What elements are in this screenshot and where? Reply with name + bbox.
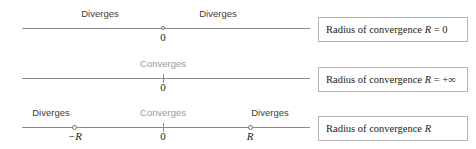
point-label-origin: 0 xyxy=(160,31,166,44)
region-label-converges-center: Converges xyxy=(140,58,186,69)
number-line-axis xyxy=(22,78,310,79)
region-label-diverges-left: Diverges xyxy=(32,107,70,118)
region-label-diverges-right: Diverges xyxy=(199,8,237,19)
caption-symbol-r: R xyxy=(425,123,431,134)
caption-prefix: Radius of convergence xyxy=(326,74,425,85)
point-label-pos-r: R xyxy=(247,130,254,143)
caption-suffix: = +∞ xyxy=(431,74,456,85)
point-label-origin: 0 xyxy=(160,81,166,94)
caption-prefix: Radius of convergence xyxy=(326,123,425,134)
pos-r-symbol: R xyxy=(247,130,254,142)
caption-text-r-infinite: Radius of convergence R = +∞ xyxy=(326,74,456,86)
point-label-origin: 0 xyxy=(160,130,166,143)
caption-text-r-zero: Radius of convergence R = 0 xyxy=(326,24,448,36)
caption-box-r-finite: Radius of convergence R xyxy=(318,116,468,141)
caption-text-r-finite: Radius of convergence R xyxy=(326,123,431,135)
caption-box-r-infinite: Radius of convergence R = +∞ xyxy=(318,67,468,92)
radius-of-convergence-figure: Diverges Diverges 0 Converges 0 Diverges… xyxy=(0,0,476,149)
number-line-axis xyxy=(22,127,310,128)
origin-marker-dot-icon xyxy=(161,26,165,30)
caption-box-r-zero: Radius of convergence R = 0 xyxy=(318,17,468,42)
region-label-diverges-right: Diverges xyxy=(251,107,289,118)
region-label-converges-center: Converges xyxy=(140,107,186,118)
number-line-axis xyxy=(22,28,310,29)
region-label-diverges-left: Diverges xyxy=(81,8,119,19)
neg-r-symbol: −R xyxy=(68,130,82,142)
point-label-neg-r: −R xyxy=(68,130,82,143)
caption-suffix: = 0 xyxy=(431,24,447,35)
caption-prefix: Radius of convergence xyxy=(326,24,425,35)
